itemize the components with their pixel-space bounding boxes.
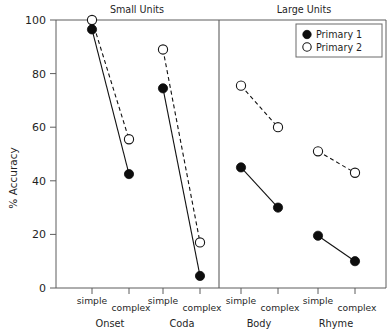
series-line-primary-1-coda — [163, 88, 200, 276]
data-point-primary-2-rhyme-complex — [350, 168, 359, 177]
x-axis-ticks — [92, 288, 355, 294]
panel-title-small-units: Small Units — [110, 4, 164, 15]
series-line-primary-1-onset — [92, 29, 129, 174]
data-point-primary-2-coda-simple — [158, 45, 167, 54]
group-label-coda: Coda — [169, 318, 194, 329]
panel-title-large-units: Large Units — [277, 4, 332, 15]
axes-frame — [56, 20, 386, 288]
data-point-primary-2-coda-complex — [195, 238, 204, 247]
x-group-labels: Onset Coda Body Rhyme — [96, 318, 354, 329]
series-line-primary-2-rhyme — [318, 151, 355, 172]
x-label-body-simple: simple — [226, 295, 257, 306]
series-line-primary-2-onset — [92, 20, 129, 139]
legend: Primary 1 Primary 2 — [296, 24, 382, 57]
series-line-primary-2-body — [241, 86, 278, 128]
x-label-coda-simple: simple — [148, 295, 179, 306]
y-axis-ticks: 100 80 60 40 20 0 — [25, 14, 56, 295]
data-point-primary-1-body-simple — [236, 163, 245, 172]
series-line-primary-1-body — [241, 167, 278, 207]
data-point-primary-1-rhyme-complex — [350, 257, 359, 266]
x-label-onset-simple: simple — [77, 295, 108, 306]
legend-marker-primary-2-icon — [303, 43, 311, 51]
data-point-primary-1-onset-complex — [124, 170, 133, 179]
legend-marker-primary-1-icon — [303, 30, 311, 38]
x-label-coda-complex: complex — [183, 302, 222, 313]
chart-canvas: 100 80 60 40 20 0 % Accuracy Small Units… — [0, 0, 392, 334]
group-label-body: Body — [247, 318, 272, 329]
x-label-body-complex: complex — [261, 302, 300, 313]
data-point-primary-2-body-complex — [273, 123, 282, 132]
data-point-primary-1-body-complex — [273, 203, 282, 212]
data-point-primary-1-coda-complex — [195, 271, 204, 280]
data-point-primary-1-onset-simple — [87, 25, 96, 34]
chart-figure: 100 80 60 40 20 0 % Accuracy Small Units… — [0, 0, 392, 334]
data-point-primary-2-rhyme-simple — [313, 147, 322, 156]
group-label-rhyme: Rhyme — [319, 318, 353, 329]
y-tick-label-0: 0 — [39, 282, 46, 295]
data-point-primary-2-onset-simple — [87, 15, 96, 24]
legend-label-primary-1: Primary 1 — [316, 29, 362, 40]
y-tick-label-80: 80 — [32, 68, 46, 81]
legend-label-primary-2: Primary 2 — [316, 42, 362, 53]
x-label-rhyme-simple: simple — [303, 295, 334, 306]
group-label-onset: Onset — [96, 318, 125, 329]
x-category-labels: simple complex simple complex simple com… — [77, 295, 377, 313]
y-axis-title: % Accuracy — [7, 147, 19, 208]
y-tick-label-40: 40 — [32, 175, 46, 188]
y-tick-label-60: 60 — [32, 121, 46, 134]
data-point-primary-1-rhyme-simple — [313, 231, 322, 240]
series-line-primary-2-coda — [163, 49, 200, 242]
data-point-primary-2-onset-complex — [124, 135, 133, 144]
data-point-primary-2-body-simple — [236, 81, 245, 90]
y-tick-label-20: 20 — [32, 228, 46, 241]
data-point-primary-1-coda-simple — [158, 84, 167, 93]
x-label-rhyme-complex: complex — [338, 302, 377, 313]
y-tick-label-100: 100 — [25, 14, 46, 27]
x-label-onset-complex: complex — [112, 302, 151, 313]
series-line-primary-1-rhyme — [318, 236, 355, 261]
